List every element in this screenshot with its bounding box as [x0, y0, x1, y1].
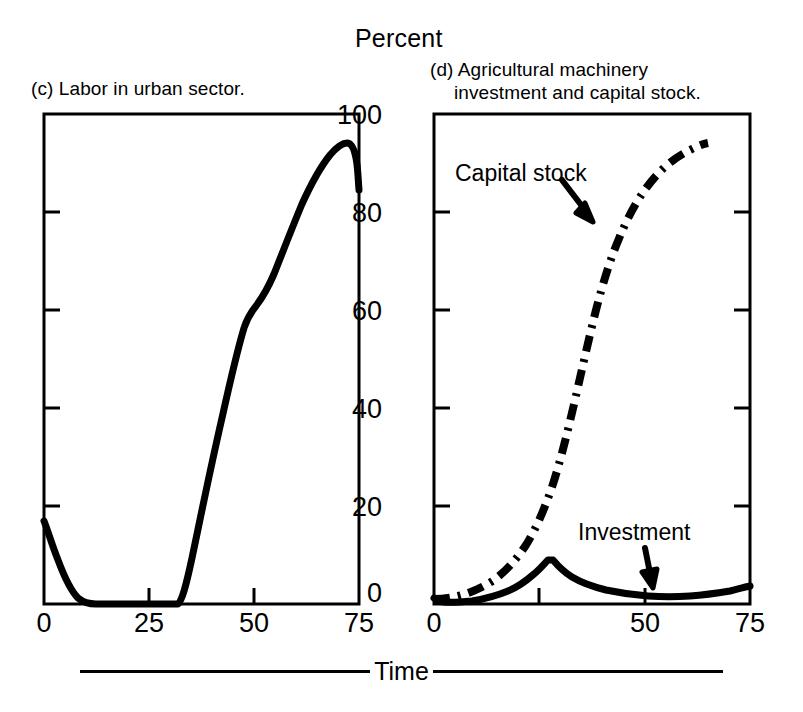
figure-root: Percent (c) Labor in urban sector. (d) A… — [0, 0, 803, 712]
panel-c-x-tick-label-50: 50 — [224, 608, 284, 639]
panel-c-x-tick-label-75: 75 — [329, 608, 389, 639]
investment-arrow-icon — [642, 548, 657, 588]
capital-stock-label: Capital stock — [455, 160, 587, 187]
panel-d-x-tick-label-50: 50 — [615, 608, 675, 639]
y-tick-label-60: 60 — [312, 296, 382, 327]
panel-c-x-tick-label-25: 25 — [119, 608, 179, 639]
y-tick-label-40: 40 — [312, 394, 382, 425]
y-tick-label-20: 20 — [312, 492, 382, 523]
y-tick-label-80: 80 — [312, 198, 382, 229]
panel-d-y-ticks — [434, 212, 750, 506]
panel-c-y-ticks — [44, 212, 60, 506]
plot-canvas — [0, 0, 803, 712]
time-rule-right — [433, 670, 723, 673]
time-axis-label: Time — [374, 657, 429, 686]
panel-d-x-tick-label-75: 75 — [720, 608, 780, 639]
investment-label: Investment — [578, 519, 691, 546]
panel-d-x-tick-label-0: 0 — [404, 608, 464, 639]
time-rule-left — [80, 670, 370, 673]
time-axis-label-group: Time — [0, 655, 803, 686]
y-tick-label-0: 0 — [312, 578, 382, 609]
y-tick-label-100: 100 — [312, 100, 382, 131]
investment-curve — [434, 560, 750, 602]
panel-c-x-tick-label-0: 0 — [14, 608, 74, 639]
